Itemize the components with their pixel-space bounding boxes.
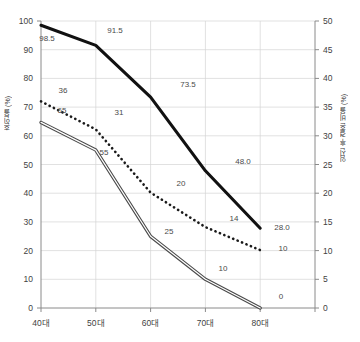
data-label-dotted-1: 31 — [104, 108, 134, 117]
y-right-tick-20: 20 — [323, 188, 345, 198]
y-right-tick-15: 15 — [323, 217, 345, 227]
data-label-dotted-3: 14 — [219, 214, 249, 223]
data-label-solid-4: 28.0 — [267, 223, 297, 232]
x-axis-tick-80s: 80대 — [240, 316, 280, 328]
data-label-solid-2: 73.5 — [173, 80, 203, 89]
data-label-dotted-4: 10 — [268, 244, 298, 253]
x-axis-tick-70s: 70대 — [185, 316, 225, 328]
gridlines — [41, 21, 315, 308]
y-left-tick-0: 0 — [11, 303, 33, 313]
y-left-tick-70: 70 — [11, 102, 33, 112]
chart-container: 혼인율 (%) 임신 후 결혼 비율 (%) — [0, 0, 360, 342]
right-axis-ticks — [315, 21, 319, 308]
y-left-tick-100: 100 — [11, 16, 33, 26]
plot-area — [0, 0, 360, 342]
y-left-tick-10: 10 — [11, 274, 33, 284]
y-right-tick-5: 5 — [323, 274, 345, 284]
y-right-tick-45: 45 — [323, 45, 345, 55]
y-left-tick-30: 30 — [11, 217, 33, 227]
x-axis-tick-50s: 50대 — [76, 316, 116, 328]
y-right-tick-0: 0 — [323, 303, 345, 313]
y-left-tick-60: 60 — [11, 131, 33, 141]
x-axis-tick-60s: 60대 — [131, 316, 171, 328]
y-left-tick-80: 80 — [11, 73, 33, 83]
x-axis-tick-40s: 40대 — [21, 316, 61, 328]
y-right-tick-50: 50 — [323, 16, 345, 26]
data-label-dotted-2: 20 — [166, 179, 196, 188]
data-label-solid-0: 98.5 — [32, 34, 62, 43]
y-left-tick-90: 90 — [11, 45, 33, 55]
y-right-tick-40: 40 — [323, 73, 345, 83]
y-left-tick-20: 20 — [11, 246, 33, 256]
y-right-tick-25: 25 — [323, 160, 345, 170]
left-axis-ticks — [37, 21, 41, 308]
y-right-tick-35: 35 — [323, 102, 345, 112]
data-label-dotted-0: 36 — [48, 86, 78, 95]
y-left-tick-50: 50 — [11, 160, 33, 170]
data-label-double-0: 65 — [47, 106, 77, 115]
data-label-double-4: 0 — [266, 292, 296, 301]
data-label-double-1: 55 — [89, 148, 119, 157]
data-label-solid-1: 91.5 — [100, 26, 130, 35]
y-left-tick-40: 40 — [11, 188, 33, 198]
data-label-double-2: 25 — [154, 227, 184, 236]
y-right-tick-10: 10 — [323, 246, 345, 256]
data-label-double-3: 10 — [208, 264, 238, 273]
x-axis-ticks — [41, 308, 315, 312]
y-right-tick-30: 30 — [323, 131, 345, 141]
data-label-solid-3: 48.0 — [228, 157, 258, 166]
